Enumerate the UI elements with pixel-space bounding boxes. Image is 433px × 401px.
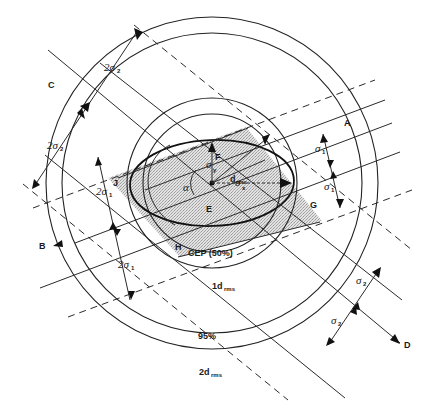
right-sigma2-lower-sub: 2 — [338, 321, 342, 327]
cep-label: CEP (50%) — [188, 248, 233, 258]
right-sigma2-upper-label: σ — [356, 274, 362, 286]
left-2sigma1-sub: 1 — [109, 192, 113, 198]
two-drms-subscript: rms — [211, 372, 223, 378]
error-ellipse-diagram: A B C D E F G H J α σ y σ x d rms CEP (5… — [0, 0, 433, 401]
arrow-head-B — [53, 240, 63, 247]
label-95-percent: 95% — [198, 331, 216, 341]
right-sigma2-lower-label: σ — [331, 314, 337, 326]
right-sigma2-upper-sub: 2 — [363, 281, 367, 287]
label-C: C — [48, 80, 55, 90]
one-drms-subscript: rms — [224, 286, 236, 292]
sigma-y-symbol: σ — [206, 158, 212, 170]
label-D: D — [404, 340, 411, 350]
right-sigma1-lower-label: σ — [324, 180, 330, 192]
label-E: E — [206, 204, 212, 214]
top-2sigma2-label: 2σ — [104, 61, 116, 73]
right-sigma1-upper-sub: 1 — [322, 149, 326, 155]
drms-subscript: rms — [236, 179, 248, 185]
two-drms-label: 2d — [199, 367, 210, 377]
shaded-parallelogram — [108, 127, 322, 257]
alpha-symbol: α — [183, 181, 189, 193]
left-2sigma2-sub: 2 — [60, 146, 64, 152]
label-J: J — [113, 178, 118, 188]
drms-symbol: d — [230, 174, 236, 184]
left-2sigma2-label: 2σ — [47, 139, 59, 151]
right-sigma1-upper-label: σ — [315, 142, 321, 154]
label-B: B — [39, 241, 46, 251]
left-2sigma-lower-sub: 1 — [131, 265, 135, 271]
label-H: H — [175, 242, 182, 252]
label-F: F — [215, 152, 221, 162]
top-2sigma2-sub: 2 — [117, 68, 121, 74]
one-drms-label: 1d — [212, 281, 223, 291]
left-2sigma1-label: 2σ — [96, 185, 108, 197]
left-2sigma-lower-label: 2σ — [118, 258, 130, 270]
label-G: G — [310, 200, 317, 210]
right-sigma1-lower-sub: 1 — [331, 187, 335, 193]
label-A: A — [344, 118, 351, 128]
